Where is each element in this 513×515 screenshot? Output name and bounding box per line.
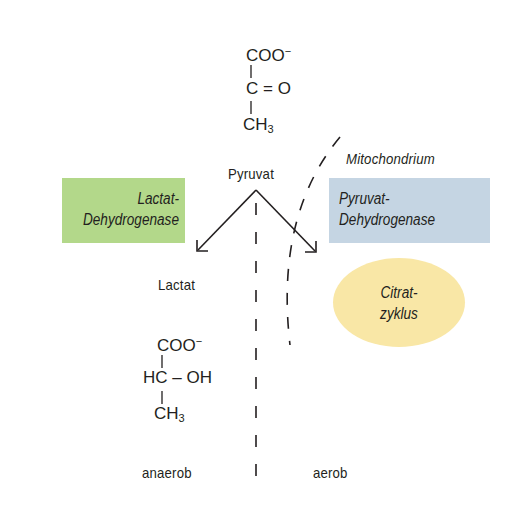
pyruvate-label: Pyruvat (228, 165, 274, 182)
lactate-methyl: CH3 (154, 404, 185, 428)
pyruvate-keto-group: C = O (246, 79, 291, 99)
lactate-carboxylate: COO− (157, 331, 202, 356)
lactate-label: Lactat (158, 276, 195, 293)
pyruvate-methyl: CH3 (243, 115, 274, 139)
anaerobic-label: anaerob (142, 464, 192, 481)
mitochondrium-boundary (287, 137, 340, 345)
mitochondrium-label: Mitochondrium (346, 150, 435, 167)
aerobic-label: aerob (313, 464, 348, 481)
pathway-lines (0, 0, 513, 515)
arrow-to-lactate (197, 190, 256, 251)
arrow-to-mitochondrium (256, 190, 316, 252)
lactate-hydroxyl-group: HC – OH (143, 368, 212, 388)
pyruvate-carboxylate: COO− (246, 41, 291, 66)
